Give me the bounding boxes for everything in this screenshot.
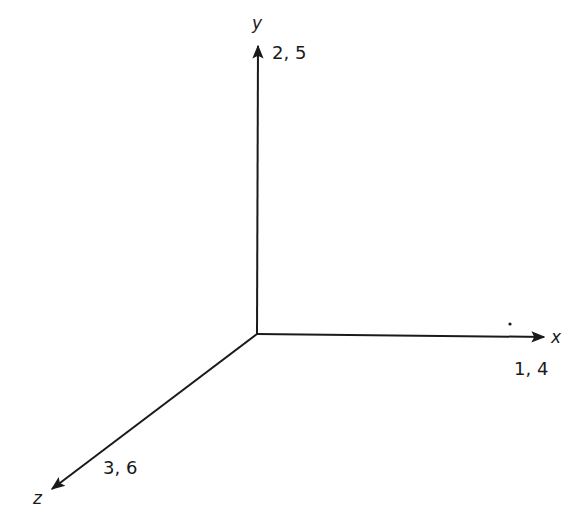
y-axis-indices: 2, 5 — [272, 42, 306, 63]
y-axis — [257, 46, 258, 334]
y-axis-label: y — [251, 13, 263, 33]
z-axis-indices: 3, 6 — [103, 457, 137, 478]
axes-diagram: y 2, 5 x 1, 4 z 3, 6 — [0, 0, 581, 519]
z-axis-label: z — [32, 488, 43, 508]
z-axis — [52, 334, 257, 489]
x-axis-indices: 1, 4 — [514, 358, 548, 379]
x-axis — [257, 334, 544, 337]
stray-dot — [508, 322, 511, 325]
x-axis-label: x — [550, 327, 562, 347]
